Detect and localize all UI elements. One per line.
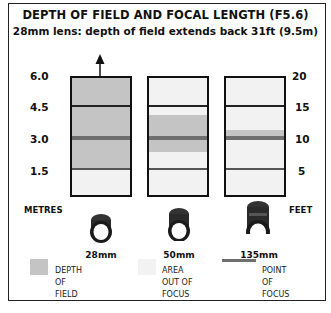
legend-out-of-focus: AREA OUT OF FOCUS [162, 265, 192, 301]
gridline-1-5 [149, 168, 207, 170]
dof-band [149, 115, 207, 152]
lens-28mm-icon [89, 212, 115, 247]
dof-column-50mm [147, 76, 209, 197]
dof-column-28mm [70, 76, 132, 197]
legend-dof-line2: OF [55, 277, 82, 289]
legend-swatch-out-of-focus [138, 259, 156, 275]
legend-swatch-dof [30, 259, 48, 275]
lens-label-28mm: 28mm [76, 250, 126, 260]
legend-oof-line2: OUT OF [162, 277, 192, 289]
feet-tick-5: 5 [298, 165, 305, 177]
legend-oof-line3: FOCUS [162, 289, 192, 301]
legend-swatch-focus-point [222, 259, 256, 262]
legend-dof: DEPTH OF FIELD [55, 265, 82, 301]
gridline-4-5 [226, 105, 284, 107]
feet-unit-label: FEET [289, 205, 312, 215]
lens-label-50mm: 50mm [154, 250, 204, 260]
gridline-1-5 [72, 168, 130, 170]
diagram-subtitle: 28mm lens: depth of field extends back 3… [0, 25, 331, 37]
arrow-up-icon [94, 54, 106, 78]
focus-line [226, 136, 284, 140]
lens-135mm-icon [245, 199, 271, 234]
legend-focus-line2: OF [262, 277, 289, 289]
gridline-4-5 [149, 105, 207, 107]
focus-line [149, 136, 207, 140]
legend-oof-line1: AREA [162, 265, 192, 277]
legend-dof-line3: FIELD [55, 289, 82, 301]
dof-band [72, 78, 130, 169]
metres-unit-label: METRES [24, 205, 63, 215]
focus-line [72, 136, 130, 140]
gridline-4-5 [72, 105, 130, 107]
metres-tick-1-5: 1.5 [30, 165, 49, 177]
dof-column-135mm [224, 76, 286, 197]
diagram-title: DEPTH OF FIELD AND FOCAL LENGTH (F5.6) [0, 8, 331, 22]
metres-tick-3: 3.0 [30, 133, 49, 145]
feet-tick-15: 15 [295, 101, 310, 113]
legend-dof-line1: DEPTH [55, 265, 82, 277]
metres-tick-6: 6.0 [30, 70, 49, 82]
lens-50mm-icon [167, 206, 193, 241]
metres-tick-4-5: 4.5 [30, 101, 49, 113]
legend-focus-line1: POINT [262, 265, 289, 277]
gridline-1-5 [226, 168, 284, 170]
feet-tick-20: 20 [292, 70, 307, 82]
legend-focus-line3: FOCUS [262, 289, 289, 301]
legend-focus-point: POINT OF FOCUS [262, 265, 289, 301]
feet-tick-10: 10 [295, 133, 310, 145]
